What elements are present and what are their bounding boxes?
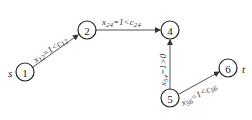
node-6: 6 t — [219, 59, 246, 77]
node-5: 5 — [161, 89, 179, 107]
sink-label: t — [242, 63, 246, 75]
edge-label-5-4: x54=1>0 — [158, 53, 170, 87]
edge-5-6: x56=1<c56 — [178, 72, 219, 110]
svg-text:2: 2 — [84, 25, 90, 37]
node-1: 1 s — [8, 63, 34, 81]
edge-label-5-6: x56=1<c56 — [178, 81, 219, 110]
svg-text:4: 4 — [167, 25, 173, 37]
edge-2-4: x24=1<c24 — [96, 17, 160, 30]
edge-5-4: x54=1>0 — [158, 40, 170, 89]
node-4: 4 — [161, 21, 179, 39]
edge-label-1-2: x12=1<c12 — [31, 34, 71, 67]
svg-text:5: 5 — [167, 93, 173, 105]
edge-1-2: x12=1<c12 — [31, 34, 78, 67]
flow-network-diagram: x12=1<c12 x24=1<c24 x54=1>0 x56=1<c56 1 … — [0, 0, 252, 120]
svg-text:6: 6 — [225, 63, 231, 75]
edge-label-2-4: x24=1<c24 — [101, 17, 141, 29]
source-label: s — [8, 67, 12, 79]
svg-text:1: 1 — [22, 67, 28, 79]
node-2: 2 — [78, 21, 96, 39]
